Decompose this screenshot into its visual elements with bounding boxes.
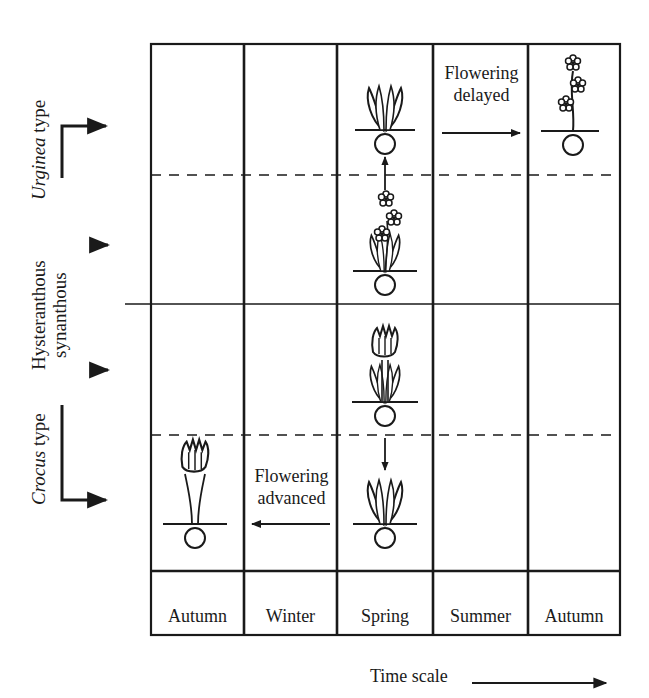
delayed-line-2: delayed: [433, 84, 530, 106]
season-summer: Summer: [433, 571, 528, 635]
delayed-line-1: Flowering: [433, 62, 530, 84]
advanced-line-1: Flowering: [244, 465, 339, 487]
urginea-italic: Urginea: [28, 137, 49, 200]
urginea-type: type: [28, 100, 49, 137]
urginea-bracket-arrow: [62, 126, 106, 178]
plant-hysteranthous-spring: [353, 191, 417, 295]
season-winter: Winter: [244, 571, 337, 635]
synanthous-label: synanthous: [49, 260, 70, 370]
plant-flowering-autumn-urginea: [541, 55, 599, 155]
crocus-type: type: [28, 413, 49, 450]
flowering-advanced-label: Flowering advanced: [244, 465, 339, 509]
row-label-crocus: Crocus type: [28, 413, 49, 505]
crocus-bracket-arrow: [62, 405, 106, 500]
crocus-italic: Crocus: [28, 451, 49, 505]
season-autumn-2: Autumn: [528, 571, 620, 635]
advanced-line-2: advanced: [244, 487, 339, 509]
season-autumn-1: Autumn: [151, 571, 244, 635]
row-label-urginea: Urginea type: [28, 100, 49, 200]
row-label-hysteranthous-synanthous: Hysteranthous synanthous: [28, 260, 70, 370]
flowering-delayed-label: Flowering delayed: [433, 62, 530, 106]
plant-leaves-spring-crocus: [353, 480, 417, 548]
hysteranthous-label: Hysteranthous: [28, 260, 49, 370]
season-spring: Spring: [337, 571, 433, 635]
plant-leaves-spring-urginea: [355, 86, 415, 154]
time-scale-label: Time scale: [370, 666, 448, 687]
plant-synanthous-spring: [352, 326, 418, 426]
plant-flowering-autumn-crocus: [163, 440, 227, 548]
